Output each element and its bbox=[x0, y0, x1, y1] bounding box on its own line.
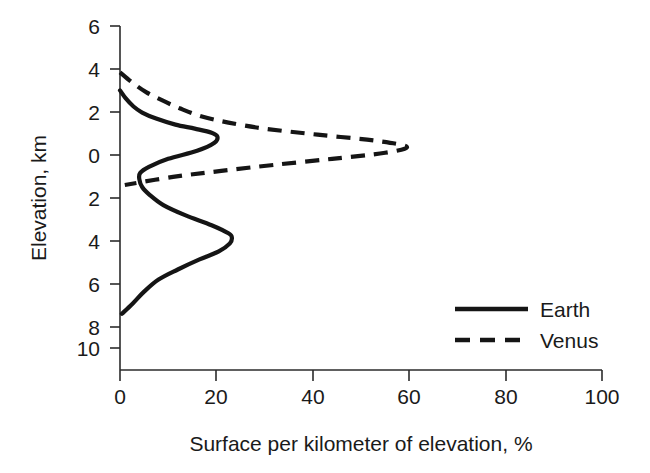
y-axis-title: Elevation, km bbox=[27, 135, 50, 261]
legend-label-venus: Venus bbox=[540, 329, 598, 352]
y-tick-label: 6 bbox=[88, 273, 100, 296]
series-line-venus bbox=[120, 72, 407, 185]
y-tick-label: 8 bbox=[88, 316, 100, 339]
y-tick-label: 4 bbox=[88, 230, 100, 253]
y-axis-tick-labels: 6 4 2 0 2 4 6 8 10 bbox=[77, 15, 101, 360]
y-tick-label: 0 bbox=[88, 144, 100, 167]
series-line-earth bbox=[120, 90, 232, 313]
y-axis-ticks bbox=[110, 26, 120, 348]
plot-axes bbox=[120, 26, 602, 370]
hypsometric-curve-chart: 6 4 2 0 2 4 6 8 10 0 20 40 60 80 100 Sur… bbox=[0, 0, 650, 473]
x-tick-label: 60 bbox=[397, 385, 420, 408]
x-tick-label: 100 bbox=[584, 385, 619, 408]
y-tick-label: 2 bbox=[88, 187, 100, 210]
y-tick-label: 4 bbox=[88, 58, 100, 81]
chart-figure: 6 4 2 0 2 4 6 8 10 0 20 40 60 80 100 Sur… bbox=[0, 0, 650, 473]
legend-label-earth: Earth bbox=[540, 298, 590, 321]
x-axis-ticks bbox=[120, 370, 602, 381]
x-tick-label: 40 bbox=[301, 385, 324, 408]
x-tick-label: 80 bbox=[494, 385, 517, 408]
y-tick-label: 2 bbox=[88, 101, 100, 124]
x-tick-label: 0 bbox=[114, 385, 126, 408]
x-axis-title: Surface per kilometer of elevation, % bbox=[189, 432, 532, 455]
x-axis-tick-labels: 0 20 40 60 80 100 bbox=[114, 385, 619, 408]
y-tick-label: 10 bbox=[77, 337, 100, 360]
chart-legend: Earth Venus bbox=[455, 298, 598, 352]
x-tick-label: 20 bbox=[204, 385, 227, 408]
data-series-group bbox=[120, 72, 407, 314]
y-tick-label: 6 bbox=[88, 15, 100, 38]
